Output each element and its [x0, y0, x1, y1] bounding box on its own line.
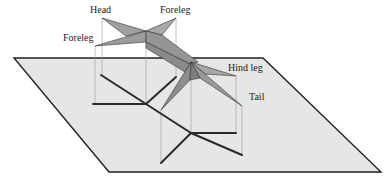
label-foreleg-right: Foreleg [160, 5, 191, 15]
label-tail: Tail [249, 92, 264, 102]
diagram-canvas: Head Foreleg Foreleg Hind leg Tail [0, 0, 388, 182]
label-foreleg-left: Foreleg [63, 33, 94, 43]
label-hind-leg: Hind leg [228, 63, 263, 73]
diagram-svg [0, 0, 388, 182]
label-head: Head [90, 5, 111, 15]
